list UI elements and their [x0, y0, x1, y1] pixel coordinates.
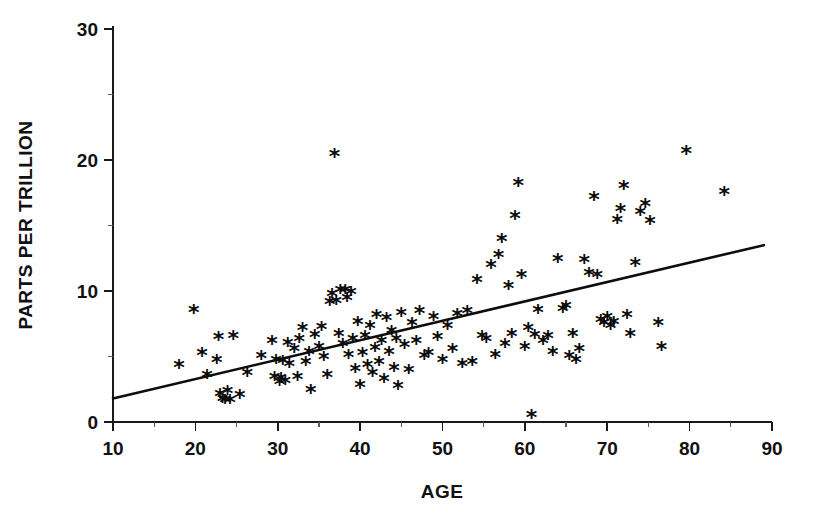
scatter-point: * — [329, 144, 341, 169]
scatter-markers-group: ****************************************… — [173, 141, 730, 429]
scatter-point: * — [506, 324, 518, 349]
x-axis-title: AGE — [421, 481, 464, 502]
scatter-point: * — [588, 187, 600, 212]
scatter-point: * — [305, 380, 317, 405]
scatter-point: * — [516, 265, 528, 290]
scatter-point: * — [644, 211, 656, 236]
scatter-point: * — [547, 342, 559, 367]
scatter-point: * — [399, 335, 411, 360]
scatter-point: * — [403, 360, 415, 385]
x-tick-label: 60 — [514, 438, 535, 459]
scatter-point: * — [653, 313, 665, 338]
scatter-point: * — [503, 276, 515, 301]
scatter-point: * — [718, 182, 730, 207]
scatter-point: * — [471, 270, 483, 295]
scatter-point: * — [592, 265, 604, 290]
plot-canvas: 102030405060708090 0102030 *************… — [0, 0, 824, 520]
scatter-point: * — [629, 253, 641, 278]
scatter-point: * — [681, 141, 693, 166]
scatter-point: * — [234, 385, 246, 410]
scatter-point: * — [345, 282, 357, 307]
scatter-point: * — [618, 176, 630, 201]
scatter-point: * — [608, 312, 620, 337]
y-axis-tick-labels: 0102030 — [77, 19, 98, 433]
scatter-point: * — [625, 324, 637, 349]
scatter-point: * — [173, 355, 185, 380]
x-tick-label: 10 — [102, 438, 123, 459]
x-tick-label: 30 — [267, 438, 288, 459]
scatter-point: * — [321, 365, 333, 390]
scatter-plot-figure: 102030405060708090 0102030 *************… — [0, 0, 824, 520]
x-tick-label: 40 — [350, 438, 371, 459]
y-tick-label: 30 — [77, 19, 98, 40]
scatter-point: * — [213, 327, 225, 352]
scatter-point: * — [466, 352, 478, 377]
y-tick-label: 0 — [87, 412, 98, 433]
scatter-point: * — [656, 337, 668, 362]
y-tick-label: 20 — [77, 150, 98, 171]
scatter-point: * — [509, 206, 521, 231]
scatter-point: * — [560, 296, 572, 321]
scatter-point: * — [188, 300, 200, 325]
scatter-point: * — [228, 326, 240, 351]
scatter-point: * — [196, 343, 208, 368]
scatter-point: * — [297, 318, 309, 343]
scatter-point: * — [573, 339, 585, 364]
x-axis-ticks — [113, 422, 772, 431]
scatter-point: * — [461, 301, 473, 326]
y-tick-label: 10 — [77, 281, 98, 302]
scatter-point: * — [615, 199, 627, 224]
x-tick-label: 80 — [679, 438, 700, 459]
y-axis-title: PARTS PER TRILLION — [15, 120, 36, 329]
x-tick-label: 90 — [761, 438, 782, 459]
scatter-point: * — [532, 300, 544, 325]
scatter-point: * — [496, 229, 508, 254]
x-axis-tick-labels: 102030405060708090 — [102, 438, 782, 459]
scatter-point: * — [513, 173, 525, 198]
scatter-point: * — [242, 363, 254, 388]
x-tick-label: 70 — [597, 438, 618, 459]
scatter-point: * — [316, 317, 328, 342]
y-axis-ticks — [104, 29, 113, 422]
x-tick-label: 50 — [432, 438, 453, 459]
scatter-point: * — [414, 301, 426, 326]
scatter-point: * — [526, 405, 538, 430]
scatter-point: * — [211, 350, 223, 375]
scatter-point: * — [552, 249, 564, 274]
x-tick-label: 20 — [185, 438, 206, 459]
